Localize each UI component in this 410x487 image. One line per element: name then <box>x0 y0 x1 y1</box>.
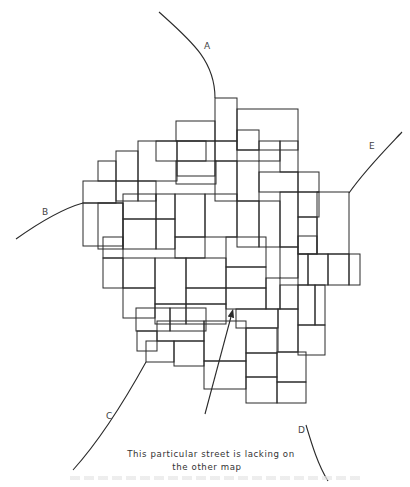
street-map-diagram: A B C D E This particular street is lack… <box>0 0 410 487</box>
road-a <box>159 12 215 98</box>
roads <box>16 12 402 481</box>
street-grid <box>83 98 360 403</box>
road-label-b: B <box>42 207 48 217</box>
road-label-d: D <box>298 425 305 435</box>
faint-caption <box>70 476 360 480</box>
road-label-a: A <box>204 41 211 51</box>
road-label-c: C <box>106 411 112 421</box>
annotation-arrow <box>205 313 232 414</box>
road-e <box>349 132 402 193</box>
road-b <box>16 203 83 239</box>
road-label-e: E <box>369 141 375 151</box>
annotation-line-2: the other map <box>172 462 241 472</box>
map-canvas: A B C D E This particular street is lack… <box>0 0 410 487</box>
road-labels: A B C D E <box>42 41 375 435</box>
road-d <box>306 425 328 481</box>
annotation-line-1: This particular street is lacking on <box>126 449 295 459</box>
